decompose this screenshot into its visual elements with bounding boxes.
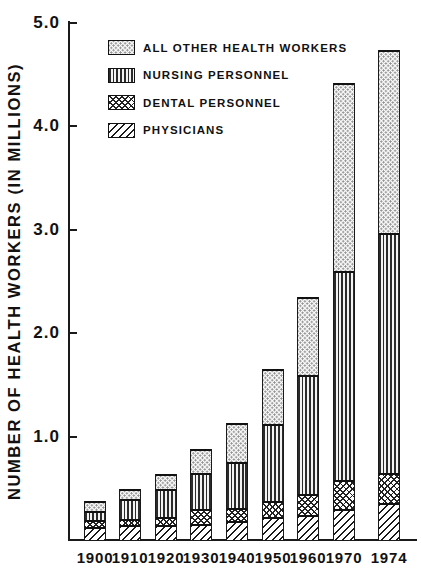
- bar-segment-nursing-personnel-1970: [334, 271, 354, 480]
- y-tick-3.0: [69, 229, 77, 231]
- bar-1950: [262, 369, 284, 540]
- bar-1900: [84, 501, 106, 540]
- bar-1920: [155, 474, 177, 540]
- bar-1930: [190, 449, 212, 540]
- bar-1960: [297, 297, 319, 540]
- y-axis-line: [68, 21, 70, 541]
- bar-segment-nursing-personnel-1960: [298, 375, 318, 494]
- y-axis-title: NUMBER OF HEALTH WORKERS (IN MILLIONS): [5, 32, 24, 532]
- y-tick-4.0: [69, 125, 77, 127]
- y-tick-label-2.0: 2.0: [26, 323, 60, 343]
- bar-segment-physicians-1974: [379, 503, 399, 540]
- legend-label-dental-personnel: DENTAL PERSONNEL: [143, 97, 281, 109]
- bar-segment-dental-personnel-1930: [191, 509, 211, 523]
- bar-1970: [333, 83, 355, 540]
- bar-segment-all-other-health-workers-1910: [120, 489, 140, 498]
- bar-segment-nursing-personnel-1900: [85, 511, 105, 521]
- y-tick-label-1.0: 1.0: [26, 427, 60, 447]
- chart: NUMBER OF HEALTH WORKERS (IN MILLIONS) 1…: [0, 0, 421, 574]
- y-tick-label-4.0: 4.0: [26, 116, 60, 136]
- bar-segment-dental-personnel-1960: [298, 494, 318, 515]
- legend-swatch-all-other-health-workers: [108, 40, 135, 55]
- bar-segment-nursing-personnel-1974: [379, 233, 399, 473]
- legend-label-all-other-health-workers: ALL OTHER HEALTH WORKERS: [143, 42, 347, 54]
- bar-segment-all-other-health-workers-1930: [191, 449, 211, 472]
- bar-segment-dental-personnel-1940: [227, 508, 247, 521]
- legend-swatch-dental-personnel: [108, 95, 135, 110]
- legend: ALL OTHER HEALTH WORKERSNURSING PERSONNE…: [108, 40, 347, 150]
- bar-segment-dental-personnel-1920: [156, 517, 176, 525]
- bar-segment-physicians-1960: [298, 515, 318, 540]
- bar-segment-physicians-1910: [120, 525, 140, 539]
- bar-segment-nursing-personnel-1920: [156, 489, 176, 516]
- bar-1940: [226, 423, 248, 540]
- bar-segment-all-other-health-workers-1974: [379, 50, 399, 232]
- bar-segment-physicians-1970: [334, 509, 354, 540]
- bar-segment-physicians-1930: [191, 524, 211, 540]
- legend-item-dental-personnel: DENTAL PERSONNEL: [108, 95, 347, 110]
- bar-segment-nursing-personnel-1950: [263, 424, 283, 501]
- bar-segment-dental-personnel-1970: [334, 480, 354, 509]
- legend-item-all-other-health-workers: ALL OTHER HEALTH WORKERS: [108, 40, 347, 55]
- legend-label-physicians: PHYSICIANS: [143, 124, 224, 136]
- y-tick-2.0: [69, 332, 77, 334]
- bar-1974: [378, 50, 400, 540]
- legend-swatch-physicians: [108, 123, 135, 138]
- legend-item-nursing-personnel: NURSING PERSONNEL: [108, 68, 347, 83]
- bar-segment-all-other-health-workers-1960: [298, 297, 318, 375]
- bar-segment-all-other-health-workers-1940: [227, 423, 247, 462]
- bar-segment-all-other-health-workers-1920: [156, 474, 176, 490]
- x-axis-label-1974: 1974: [366, 549, 412, 566]
- legend-item-physicians: PHYSICIANS: [108, 123, 347, 138]
- bar-segment-dental-personnel-1910: [120, 519, 140, 526]
- bar-segment-nursing-personnel-1940: [227, 462, 247, 508]
- bar-segment-physicians-1900: [85, 527, 105, 540]
- bar-segment-dental-personnel-1900: [85, 520, 105, 527]
- bar-segment-physicians-1940: [227, 521, 247, 540]
- legend-label-nursing-personnel: NURSING PERSONNEL: [143, 69, 290, 81]
- bar-segment-dental-personnel-1950: [263, 501, 283, 518]
- y-tick-label-3.0: 3.0: [26, 220, 60, 240]
- bar-segment-all-other-health-workers-1900: [85, 501, 105, 510]
- bar-segment-physicians-1950: [263, 517, 283, 540]
- y-tick-5.0: [69, 22, 77, 24]
- bar-1910: [119, 489, 141, 540]
- bar-segment-physicians-1920: [156, 525, 176, 540]
- bar-segment-dental-personnel-1974: [379, 473, 399, 504]
- bar-segment-nursing-personnel-1910: [120, 499, 140, 519]
- bar-segment-nursing-personnel-1930: [191, 473, 211, 510]
- legend-swatch-nursing-personnel: [108, 68, 135, 83]
- y-tick-1.0: [69, 436, 77, 438]
- bar-segment-all-other-health-workers-1950: [263, 369, 283, 424]
- y-tick-label-5.0: 5.0: [26, 13, 60, 33]
- x-axis-label-1970: 1970: [321, 549, 367, 566]
